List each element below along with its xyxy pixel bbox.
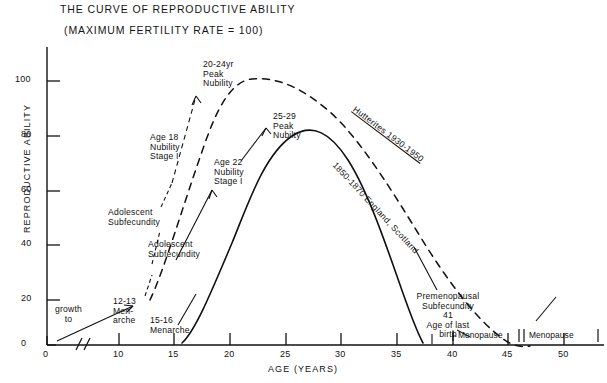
x-tick-45: 45 (502, 349, 513, 359)
annotation-adolescent-subfecundity-2: Adolescent Subfecundity (148, 240, 200, 259)
annotation-adolescent-subfecundity-1: Adolescent Subfecundity (108, 208, 160, 227)
annotation-peak-nubility-25-29: 25-29 Peak Nubilty (273, 112, 301, 141)
annotation-age-18-nubility: Age 18 Nubility Stage I (150, 133, 180, 162)
y-tick-0: 0 (21, 338, 26, 348)
x-tick-25: 25 (280, 349, 291, 359)
x-tick-15: 15 (168, 349, 179, 359)
leader-menopause-2 (536, 297, 556, 321)
x-tick-30: 30 (335, 349, 346, 359)
axis-break-marks (76, 338, 90, 350)
annotation-menopause-1: Menopause (458, 330, 503, 340)
y-tick-40: 40 (21, 238, 32, 248)
annotation-peak-nubility-20-24: 20-24yr Peak Nubility (203, 60, 234, 89)
chart-canvas (0, 0, 607, 383)
x-tick-20: 20 (224, 349, 235, 359)
annotation-menopause-2: Menopause (529, 330, 574, 340)
reproductive-ability-chart: THE CURVE OF REPRODUCTIVE ABILITY (MAXIM… (0, 0, 607, 383)
x-tick-0: 0 (43, 349, 48, 359)
annotation-menarche-12-13: 12-13 Men- arche (113, 297, 136, 326)
y-axis-label: REPRODUCTIVE ABILITY (22, 113, 32, 233)
leader-premenopausal (414, 247, 437, 290)
y-tick-100: 100 (15, 74, 31, 84)
x-tick-40: 40 (447, 349, 458, 359)
x-tick-35: 35 (391, 349, 402, 359)
x-tick-50: 50 (558, 349, 569, 359)
x-axis-label: AGE (YEARS) (268, 364, 338, 374)
annotation-menarche-15-16: 15-16 Menarche (150, 316, 190, 335)
leader-subfecundity-1b (161, 183, 172, 207)
annotation-age-22-nubility: Age 22 Nubility Stage I (214, 158, 244, 187)
leader-menarche-early (145, 275, 152, 296)
x-tick-10: 10 (113, 349, 124, 359)
annotation-growth-to: growth to (55, 305, 82, 324)
y-tick-20: 20 (21, 293, 32, 303)
leader-age22-peak (241, 128, 266, 161)
